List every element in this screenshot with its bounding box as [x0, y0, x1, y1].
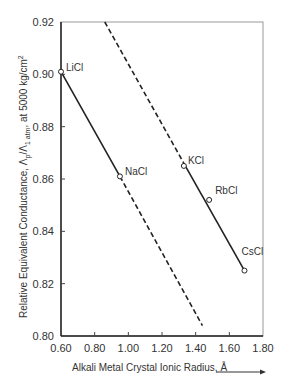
x-tick-label: 1.60 [219, 342, 240, 354]
data-point-marker [242, 268, 247, 273]
arrowhead-icon [260, 370, 266, 375]
data-point-marker [207, 197, 212, 202]
data-point-marker [59, 69, 64, 74]
chart: 0.600.801.001.201.401.601.80 0.800.820.8… [0, 0, 286, 391]
y-ticks: 0.800.820.840.860.880.900.92 [33, 16, 65, 342]
data-point-label: CsCl [241, 246, 263, 257]
series-lines [61, 22, 244, 326]
y-tick-label: 0.88 [33, 121, 54, 133]
trend-line-dashed [120, 176, 202, 325]
y-tick-label: 0.82 [33, 278, 54, 290]
x-tick-label: 1.40 [185, 342, 206, 354]
x-tick-label: 0.80 [84, 342, 105, 354]
data-point-marker [117, 174, 122, 179]
data-point-label: NaCl [125, 166, 147, 177]
y-tick-label: 0.92 [33, 16, 54, 28]
x-tick-label: 1.20 [151, 342, 172, 354]
data-point-label: LiCl [66, 62, 83, 73]
x-tick-label: 1.80 [252, 342, 273, 354]
data-point-marker [181, 163, 186, 168]
data-point-label: KCl [188, 155, 204, 166]
x-tick-label: 0.60 [50, 342, 71, 354]
trend-line-dashed [105, 22, 184, 163]
data-point-label: RbCl [215, 185, 237, 196]
x-tick-label: 1.00 [118, 342, 139, 354]
data-points: LiClNaClKClRbClCsCl [59, 62, 264, 273]
y-tick-label: 0.90 [33, 68, 54, 80]
y-tick-label: 0.84 [33, 225, 54, 237]
y-tick-label: 0.86 [33, 173, 54, 185]
trend-line-solid [184, 163, 245, 270]
x-axis-title: Alkali Metal Crystal Ionic Radius, Å [72, 361, 227, 373]
trend-line-solid [61, 72, 120, 177]
y-tick-label: 0.80 [33, 330, 54, 342]
plot-frame [61, 22, 263, 336]
y-axis-title: Relative Equivalent Conductance, Λp/Λ1 a… [17, 55, 32, 318]
